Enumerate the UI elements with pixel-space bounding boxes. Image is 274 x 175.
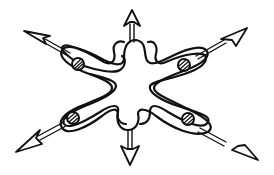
arrow-up — [124, 10, 140, 42]
arrow-down — [121, 130, 139, 165]
nucleus-upper-left — [72, 58, 84, 70]
nucleus-lower-right — [182, 113, 194, 125]
diagram-canvas — [0, 0, 274, 175]
x-shaped-body-diagram — [0, 0, 274, 175]
nucleus-lower-left — [67, 112, 79, 124]
arrow-down-left — [16, 122, 66, 152]
nucleus-upper-right — [178, 59, 190, 71]
